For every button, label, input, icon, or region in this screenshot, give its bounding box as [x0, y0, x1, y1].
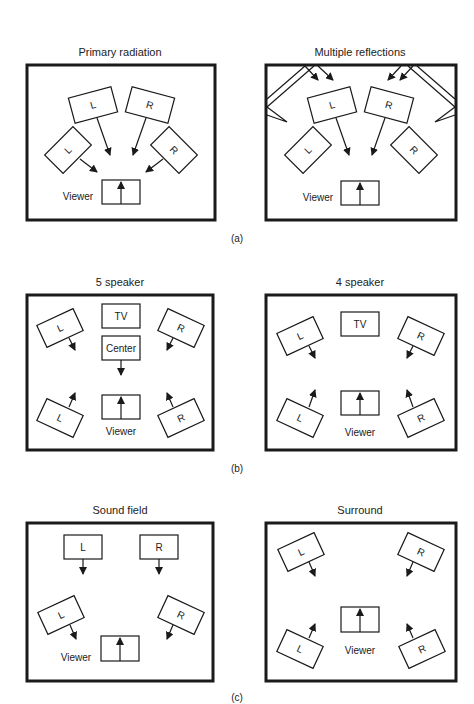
arrow-icon [97, 118, 110, 155]
viewer: Viewer [341, 391, 379, 438]
panel-5-speaker: 5 speaker TV Center L R L R [27, 276, 213, 450]
arrow-icon [372, 118, 385, 155]
caption-c: (c) [231, 692, 243, 703]
speaker-layout-figure: Primary radiation L R L R Viewer [0, 0, 474, 704]
panel-surround: Surround L R L R Viewer [266, 504, 456, 681]
panel-4-speaker: 4 speaker TV L R L R Viewer [266, 276, 456, 450]
speaker-front-left: L [37, 309, 83, 348]
speaker-front-right: R [398, 317, 444, 356]
arrow-icon [407, 562, 413, 576]
panel-title: Primary radiation [78, 46, 161, 58]
arrow-icon [69, 393, 75, 407]
speaker-front-right: R [364, 87, 413, 124]
viewer-label: Viewer [61, 652, 92, 663]
viewer: Viewer [341, 607, 379, 656]
speaker-front-left: L [307, 87, 356, 124]
speaker-side-left: L [285, 127, 332, 174]
svg-text:Center: Center [106, 343, 137, 354]
arrow-icon [133, 118, 146, 155]
viewer-label: Viewer [303, 192, 334, 203]
viewer: Viewer [61, 636, 139, 663]
speaker-front-right: R [140, 535, 178, 559]
speaker-side-left: L [45, 127, 92, 174]
panel-title: 5 speaker [96, 276, 145, 288]
svg-text:TV: TV [115, 311, 128, 322]
arrow-icon [146, 159, 163, 172]
arrow-icon [167, 338, 173, 350]
arrow-icon [309, 562, 315, 576]
panel-multiple-reflections: Multiple reflections L R [266, 46, 456, 220]
speaker-side-left: L [38, 596, 84, 635]
speaker-front-right: R [125, 87, 174, 124]
speaker-front-left: L [278, 533, 324, 572]
svg-text:R: R [155, 542, 162, 553]
panel-title: Sound field [92, 504, 147, 516]
speaker-center: Center [102, 336, 140, 360]
arrow-icon [167, 393, 173, 407]
viewer: Viewer [102, 395, 140, 437]
viewer: Viewer [303, 181, 379, 205]
caption-a: (a) [231, 233, 243, 244]
arrow-icon [336, 118, 349, 155]
arrow-icon [309, 624, 315, 638]
speaker-side-right: R [158, 596, 204, 635]
speaker-front-left: L [64, 535, 102, 559]
viewer: Viewer [63, 180, 140, 204]
arrow-icon [69, 338, 75, 350]
arrow-icon [407, 624, 413, 638]
panel-title: Surround [337, 504, 382, 516]
speaker-rear-right: R [399, 630, 445, 669]
speaker-front-left: L [68, 87, 117, 124]
panel-title: 4 speaker [336, 276, 385, 288]
arrow-icon [407, 346, 413, 358]
speaker-rear-right: R [158, 399, 204, 438]
speaker-rear-left: L [277, 630, 323, 669]
speaker-front-right: R [158, 309, 204, 348]
speaker-front-left: L [277, 317, 323, 356]
arrow-icon [309, 346, 315, 358]
panel-primary-radiation: Primary radiation L R L R Viewer [27, 46, 215, 220]
caption-b: (b) [231, 463, 243, 474]
arrow-icon [407, 390, 413, 407]
arrow-icon [80, 159, 97, 172]
viewer-label: Viewer [345, 427, 376, 438]
speaker-side-right: R [151, 127, 198, 174]
svg-text:TV: TV [354, 319, 367, 330]
speaker-rear-right: R [398, 399, 444, 438]
panel-title: Multiple reflections [314, 46, 406, 58]
viewer-label: Viewer [106, 426, 137, 437]
tv: TV [102, 304, 140, 328]
svg-text:L: L [80, 542, 86, 553]
speaker-side-right: R [391, 127, 438, 174]
viewer-label: Viewer [345, 645, 376, 656]
speaker-rear-left: L [277, 399, 323, 438]
panel-sound-field: Sound field L R L R Viewer [27, 504, 213, 681]
viewer-label: Viewer [63, 191, 94, 202]
arrow-icon [70, 625, 76, 639]
speaker-front-right: R [398, 533, 444, 572]
speaker-rear-left: L [37, 399, 83, 438]
arrow-icon [167, 625, 173, 639]
arrow-icon [309, 390, 315, 407]
tv: TV [341, 312, 379, 336]
